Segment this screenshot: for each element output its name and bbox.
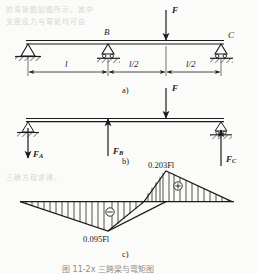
load-label-f-a: F <box>172 6 178 15</box>
sign-marker-negative <box>106 208 114 216</box>
reaction-label-fc: FC <box>226 155 236 165</box>
panel-label-c: c) <box>122 250 129 259</box>
moment-label-negative-peak: 0.095Fl <box>83 235 109 244</box>
panel-c-moment-diagram <box>20 171 234 231</box>
reaction-label-fa: FA <box>33 150 43 160</box>
dim-label-l: l <box>65 60 68 69</box>
figure-vector <box>0 0 257 274</box>
moment-label-positive-peak: 0.203Fl <box>148 161 174 170</box>
dim-label-l-half-right: l/2 <box>186 60 196 69</box>
support-label-b: B <box>104 28 110 37</box>
figure-caption: 图 11-2x 三跨梁与弯矩图 <box>62 266 154 274</box>
moment-zero-crossing-segment <box>108 202 144 231</box>
figure-canvas: 的弯矩图如图所示，其中 支座反力与弯矩均可由 三瞬方程求得。 <box>0 0 257 274</box>
reaction-fc-subscript: C <box>232 157 236 164</box>
panel-label-a: a) <box>122 86 129 95</box>
sign-marker-positive <box>174 182 182 190</box>
panel-label-b: b) <box>122 157 129 166</box>
hatch-negative <box>26 202 142 230</box>
support-c <box>210 44 233 63</box>
support-label-c: C <box>228 31 234 40</box>
load-label-f-b: F <box>172 84 178 93</box>
moment-curve-negative <box>20 202 166 231</box>
dim-label-l-half-left: l/2 <box>129 60 139 69</box>
support-b <box>97 44 120 63</box>
panel-b-group <box>17 88 232 166</box>
panel-a-group <box>15 10 233 76</box>
reaction-fa-subscript: A <box>39 152 43 159</box>
hatch-positive <box>148 172 228 201</box>
moment-curve-positive <box>144 171 232 202</box>
